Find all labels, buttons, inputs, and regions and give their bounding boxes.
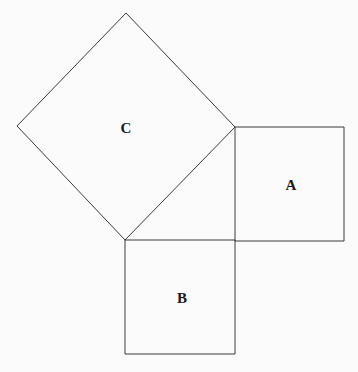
label-a: A	[286, 177, 297, 193]
pythagorean-diagram: C A B	[0, 0, 358, 372]
label-c: C	[121, 120, 132, 136]
label-b: B	[177, 290, 187, 306]
